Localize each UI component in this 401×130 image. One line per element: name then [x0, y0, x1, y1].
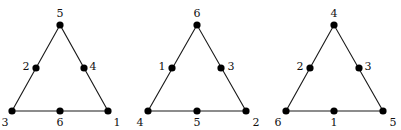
- node-bottom-mid: [193, 107, 200, 114]
- node-bottom-right: [379, 107, 386, 114]
- node-top: [330, 21, 337, 28]
- label-bottom-right: 5: [390, 116, 397, 129]
- triangle-panel-3: 4 2 3 6 1 5: [275, 7, 397, 129]
- node-top: [56, 21, 63, 28]
- label-mid-left: 2: [23, 60, 30, 73]
- label-top: 6: [194, 7, 201, 20]
- triangle-panel-1: 5 2 4 3 6 1: [2, 7, 121, 129]
- label-bottom-right: 1: [114, 116, 121, 129]
- label-mid-right: 4: [90, 60, 97, 73]
- node-bottom-mid: [56, 107, 63, 114]
- node-mid-right: [217, 64, 224, 71]
- node-bottom-left: [144, 107, 151, 114]
- label-mid-left: 1: [159, 60, 166, 73]
- label-mid-right: 3: [365, 60, 372, 73]
- label-mid-left: 2: [297, 60, 304, 73]
- label-bottom-mid: 6: [57, 116, 64, 129]
- label-bottom-left: 6: [275, 116, 282, 129]
- node-mid-right: [80, 64, 87, 71]
- label-bottom-left: 3: [2, 116, 9, 129]
- label-bottom-left: 4: [137, 116, 144, 129]
- label-top: 5: [57, 7, 64, 20]
- label-mid-right: 3: [228, 60, 235, 73]
- node-mid-left: [306, 64, 313, 71]
- node-bottom-left: [8, 107, 15, 114]
- node-bottom-mid: [330, 107, 337, 114]
- node-bottom-right: [242, 107, 249, 114]
- node-bottom-right: [104, 107, 111, 114]
- node-mid-left: [32, 64, 39, 71]
- node-mid-left: [168, 64, 175, 71]
- triangle-labeling-diagram: 5 2 4 3 6 1 6 1 3 4 5 2 4 2 3 6 1 5: [0, 0, 401, 130]
- node-top: [193, 21, 200, 28]
- label-bottom-right: 2: [253, 116, 260, 129]
- node-mid-right: [355, 64, 362, 71]
- node-bottom-left: [282, 107, 289, 114]
- label-bottom-mid: 1: [331, 116, 338, 129]
- label-top: 4: [331, 7, 338, 20]
- label-bottom-mid: 5: [194, 116, 201, 129]
- triangle-panel-2: 6 1 3 4 5 2: [137, 7, 260, 129]
